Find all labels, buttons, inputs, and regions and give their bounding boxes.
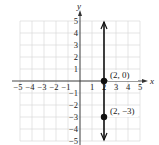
y-tick-label: −1 xyxy=(69,88,78,98)
x-tick-label: −5 xyxy=(13,82,22,92)
y-tick-label: 1 xyxy=(74,64,78,74)
y-axis-label: y xyxy=(76,1,81,11)
y-tick-label: 5 xyxy=(74,16,78,26)
y-tick-label: 3 xyxy=(74,40,78,50)
y-tick-label: −3 xyxy=(69,112,78,122)
data-point xyxy=(101,114,107,120)
x-tick-label: −3 xyxy=(37,82,46,92)
x-tick-label: 4 xyxy=(126,82,131,92)
data-point xyxy=(101,78,107,84)
y-tick-label: −4 xyxy=(69,124,79,134)
y-tick-label: 2 xyxy=(74,52,78,62)
coordinate-plane: x y −5−4−3−2−11234554321−1−2−3−4−5 (2, 0… xyxy=(0,0,159,145)
points: (2, 0)(2, −3) xyxy=(101,70,138,120)
point-label: (2, −3) xyxy=(110,106,135,116)
x-axis-label: x xyxy=(149,76,154,86)
x-tick-label: 3 xyxy=(114,82,118,92)
x-tick-label: 5 xyxy=(138,82,142,92)
x-tick-label: 1 xyxy=(90,82,94,92)
y-tick-label: −2 xyxy=(69,100,78,110)
y-tick-label: −5 xyxy=(69,136,78,145)
x-tick-label: −2 xyxy=(49,82,58,92)
point-label: (2, 0) xyxy=(110,70,130,80)
x-axis-arrow-icon xyxy=(142,79,148,83)
x-tick-label: −4 xyxy=(25,82,35,92)
